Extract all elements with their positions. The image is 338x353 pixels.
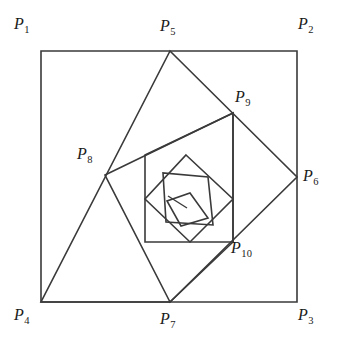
label-p9-base: P [235,88,245,105]
label-p8-subscript: 8 [87,154,92,165]
label-p3-base: P [298,306,308,323]
label-p3: P3 [298,307,313,323]
label-p10: P10 [231,240,252,256]
label-p6: P6 [303,168,318,184]
label-p7-base: P [160,310,170,327]
label-p5-base: P [160,17,170,34]
label-p9: P9 [235,89,250,105]
square-4 [145,113,233,242]
label-p2: P2 [298,16,313,32]
label-p6-subscript: 6 [313,176,318,187]
label-p8: P8 [77,146,92,162]
label-p9-subscript: 9 [245,97,250,108]
label-p3-subscript: 3 [308,315,313,326]
label-p1-subscript: 1 [24,24,29,35]
polygon-layer [41,51,297,302]
label-p7-subscript: 7 [170,319,175,330]
label-p6-base: P [303,167,313,184]
label-p4-subscript: 4 [24,315,29,326]
label-p10-base: P [231,239,241,256]
label-p10-subscript: 10 [241,248,252,259]
label-p8-base: P [77,145,87,162]
label-p5: P5 [160,18,175,34]
label-p2-subscript: 2 [308,24,313,35]
nested-squares-diagram [0,0,338,353]
square-2 [41,51,297,302]
label-p4-base: P [14,306,24,323]
square-5 [145,155,233,242]
square-7 [167,193,208,226]
label-p1-base: P [14,15,24,32]
figure-root: P1P2P3P4P5P6P7P8P9P10 [0,0,338,353]
square-1-outer [41,51,297,302]
label-p5-subscript: 5 [170,26,175,37]
label-p4: P4 [14,307,29,323]
label-p1: P1 [14,16,29,32]
label-p7: P7 [160,311,175,327]
label-p2-base: P [298,15,308,32]
